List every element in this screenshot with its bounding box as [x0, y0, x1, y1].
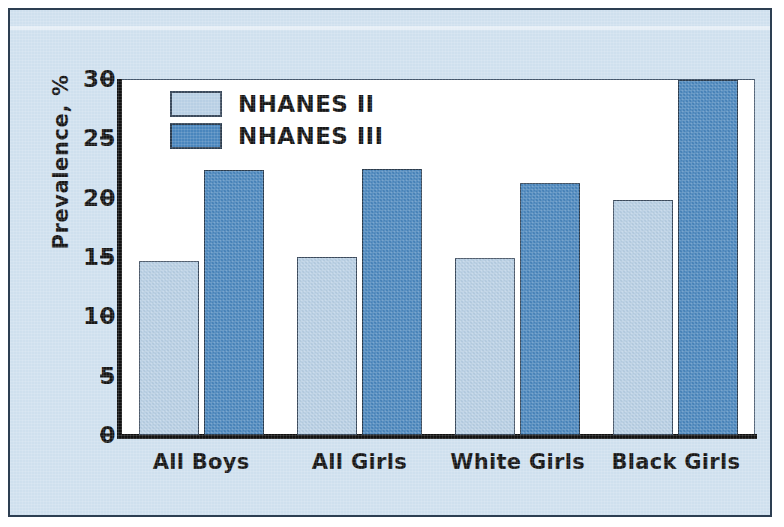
bar: [678, 80, 738, 435]
legend-swatch: [170, 91, 222, 117]
y-axis-tick-mark: [100, 256, 111, 259]
legend-item: NHANES II: [170, 91, 384, 117]
y-axis-tick-mark: [100, 78, 111, 81]
plot-area: NHANES IINHANES III: [114, 79, 755, 443]
bar: [455, 258, 515, 435]
figure-container: Prevalence, % 051015202530 NHANES IINHAN…: [0, 0, 784, 527]
chart-legend: NHANES IINHANES III: [170, 91, 384, 155]
x-axis-category-label: All Girls: [280, 450, 438, 474]
legend-label: NHANES III: [238, 123, 384, 149]
x-axis-category-label: Black Girls: [597, 450, 755, 474]
bar-group: [597, 79, 755, 435]
legend-swatch: [170, 123, 222, 149]
bar: [139, 261, 199, 435]
figure-panel: Prevalence, % 051015202530 NHANES IINHAN…: [8, 8, 772, 517]
bar: [204, 170, 264, 435]
legend-item: NHANES III: [170, 123, 384, 149]
bar-group: [439, 79, 597, 435]
x-axis-category-label: White Girls: [439, 450, 597, 474]
bar: [613, 200, 673, 435]
background-highlight-band: [10, 26, 770, 30]
y-axis-tick-mark: [100, 434, 111, 437]
x-axis-labels: All BoysAll GirlsWhite GirlsBlack Girls: [122, 450, 755, 474]
legend-label: NHANES II: [238, 91, 375, 117]
y-axis-tick-mark: [100, 196, 111, 199]
y-axis-tick-mark: [100, 315, 111, 318]
bar: [297, 257, 357, 435]
bar: [362, 169, 422, 435]
y-axis-tick-layer: 051015202530: [40, 10, 116, 515]
y-axis-tick-mark: [100, 137, 111, 140]
bar: [520, 183, 580, 435]
y-axis-tick-mark: [100, 374, 111, 377]
x-axis-category-label: All Boys: [122, 450, 280, 474]
